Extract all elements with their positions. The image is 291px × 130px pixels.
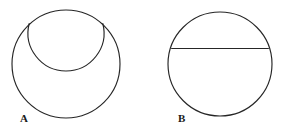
panel-a-label: A [20,112,28,124]
panel-b-label: B [178,112,186,124]
panel-a: A [12,10,120,124]
panel-b: B [168,12,272,124]
geometry-figure-canvas: A B [0,0,291,130]
panel-a-inner-arc [28,24,104,71]
panel-b-outer-circle [168,12,272,116]
